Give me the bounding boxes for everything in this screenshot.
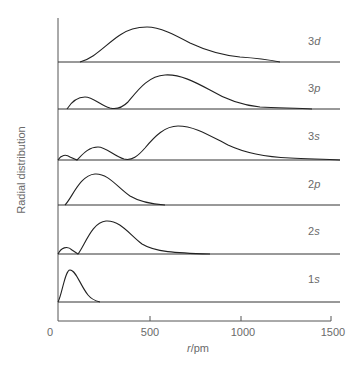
x-axis-label: r/pm bbox=[187, 342, 209, 354]
label-3s: 3s bbox=[308, 130, 320, 142]
label-2s: 2s bbox=[308, 225, 320, 237]
label-3d: 3d bbox=[308, 35, 321, 47]
radial-distribution-chart: 3d 3p 3s 2p 2s 1s 0 500 1000 1500 r/pm R… bbox=[0, 0, 356, 371]
label-3p: 3p bbox=[308, 82, 320, 94]
label-2p: 2p bbox=[308, 178, 320, 190]
curve-3p bbox=[67, 75, 312, 109]
label-1s: 1s bbox=[308, 273, 320, 285]
curve-2s bbox=[58, 221, 210, 254]
curve-1s bbox=[58, 270, 100, 302]
x-tick-label-500: 500 bbox=[141, 326, 159, 338]
curve-2p bbox=[65, 174, 165, 205]
baselines bbox=[58, 62, 340, 302]
curve-3s bbox=[58, 126, 340, 160]
curve-3d bbox=[80, 27, 280, 62]
x-tick-label-1000: 1000 bbox=[231, 326, 255, 338]
x-tick-label-0: 0 bbox=[47, 326, 53, 338]
y-axis-label: Radial distribution bbox=[15, 126, 27, 213]
x-tick-label-1500: 1500 bbox=[321, 326, 345, 338]
